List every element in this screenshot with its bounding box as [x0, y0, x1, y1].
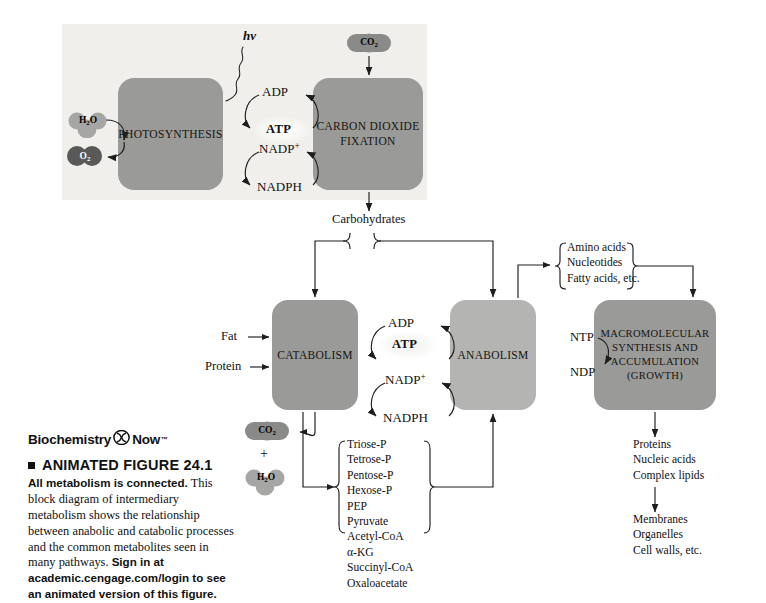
water-molecule-label: H2O [66, 115, 110, 126]
figure-title-row: ANIMATED FIGURE 24.1 [28, 457, 234, 473]
light-symbol-label: hv [243, 28, 256, 43]
products-secondary-list: Membranes Organelles Cell walls, etc. [633, 512, 702, 558]
fat-input-label: Fat [221, 329, 237, 344]
common-metabolites-list: Triose-P Tetrose-P Pentose-P Hexose-P PE… [347, 437, 413, 591]
product-item: Proteins [633, 437, 704, 452]
nadph-label-bottom: NADPH [383, 410, 428, 425]
building-block-item: Amino acids [567, 240, 640, 255]
adp-label-bottom: ADP [388, 315, 414, 330]
metabolite-item: Acetyl-CoA [347, 529, 413, 544]
metabolite-item: Succinyl-CoA [347, 560, 413, 575]
macro-line-2: SYNTHESIS AND [612, 341, 698, 355]
oxygen-molecule-output: O2 [64, 145, 106, 167]
metabolite-item: Oxaloacetate [347, 576, 413, 591]
oxygen-molecule-label: O2 [64, 151, 106, 162]
carbohydrates-label: Carbohydrates [332, 212, 405, 227]
metabolite-item: Pyruvate [347, 514, 413, 529]
macro-line-3: ACCUMULATION [611, 355, 699, 369]
product-item: Organelles [633, 527, 702, 542]
product-item: Cell walls, etc. [633, 543, 702, 558]
products-primary-list: Proteins Nucleic acids Complex lipids [633, 437, 704, 483]
dna-helix-icon [113, 430, 130, 448]
product-item: Nucleic acids [633, 452, 704, 467]
trademark-symbol: ™ [161, 436, 168, 443]
biochemistry-now-logo[interactable]: Biochemistry Now ™ [28, 430, 234, 448]
co2-fixation-line-1: CARBON DIOXIDE [317, 119, 420, 134]
figure-caption-block: Biochemistry Now ™ ANIMATED FIGURE 24.1 … [28, 430, 234, 603]
adp-label-top: ADP [262, 84, 288, 99]
co2-fixation-line-2: FIXATION [340, 134, 395, 149]
carbon-dioxide-fixation-box-label: CARBON DIOXIDE FIXATION [313, 78, 423, 190]
waste-plus-sign: + [260, 446, 268, 463]
carbon-dioxide-molecule-input: CO2 [345, 32, 393, 54]
water-molecule-waste-label: H2O [243, 472, 289, 483]
atp-label-top: ATP [266, 122, 291, 137]
water-molecule-waste: H2O [243, 468, 289, 496]
nadp-plus-label-bottom: NADP+ [385, 372, 426, 387]
carbon-dioxide-waste-label: CO2 [243, 425, 291, 436]
product-item: Membranes [633, 512, 702, 527]
macromolecular-synthesis-box-label: MACROMOLECULAR SYNTHESIS AND ACCUMULATIO… [594, 300, 716, 410]
carbon-dioxide-molecule-label: CO2 [345, 37, 393, 48]
nadph-label-top: NADPH [257, 179, 302, 194]
protein-input-label: Protein [205, 359, 241, 374]
anabolism-box-label: ANABOLISM [450, 300, 536, 410]
metabolite-item: Triose-P [347, 437, 413, 452]
caption-lead-sentence: All metabolism is connected. [28, 476, 188, 489]
building-blocks-list: Amino acids Nucleotides Fatty acids, etc… [567, 240, 640, 286]
bullet-square-icon [28, 462, 35, 469]
metabolite-item: Hexose-P [347, 483, 413, 498]
metabolite-item: Pentose-P [347, 468, 413, 483]
macro-line-1: MACROMOLECULAR [601, 327, 710, 341]
nadp-plus-label-top: NADP+ [259, 141, 300, 156]
metabolite-item: PEP [347, 499, 413, 514]
catabolism-box-label: CATABOLISM [272, 300, 358, 410]
metabolite-item: α-KG [347, 545, 413, 560]
ntp-label: NTP [570, 330, 594, 345]
macro-line-4: (GROWTH) [627, 369, 683, 383]
water-molecule-input: H2O [66, 112, 110, 138]
figure-caption-text: All metabolism is connected. This block … [28, 476, 234, 603]
building-block-item: Fatty acids, etc. [567, 271, 640, 286]
brand-suffix-text: Now [132, 432, 160, 447]
atp-label-bottom: ATP [392, 337, 417, 352]
brand-name-text: Biochemistry [28, 432, 111, 447]
building-block-item: Nucleotides [567, 255, 640, 270]
photosynthesis-box-label: PHOTOSYNTHESIS [118, 78, 223, 190]
product-item: Complex lipids [633, 468, 704, 483]
metabolite-item: Tetrose-P [347, 452, 413, 467]
carbon-dioxide-molecule-waste: CO2 [243, 420, 291, 442]
ndp-label: NDP [570, 365, 595, 380]
figure-title-text: ANIMATED FIGURE 24.1 [42, 457, 213, 473]
